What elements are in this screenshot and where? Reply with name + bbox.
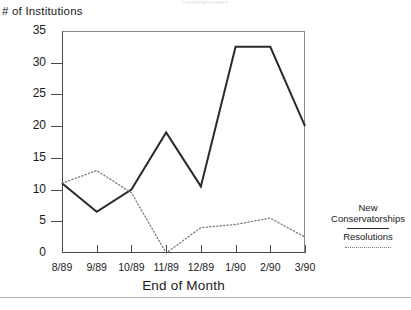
x-tick-mark [270, 245, 271, 253]
x-tick-label: 9/89 [86, 261, 106, 273]
chart-lines [62, 31, 305, 253]
y-tick-mark [51, 158, 62, 159]
x-tick-label: 2/90 [260, 261, 280, 273]
y-tick-mark [51, 126, 62, 127]
chart-page: CONSERVATORSHIPS # of Institutions 05101… [0, 0, 411, 310]
x-axis-title: End of Month [62, 278, 305, 293]
y-tick-mark [51, 63, 62, 64]
x-tick-mark [97, 245, 98, 253]
y-tick-label: 35 [33, 23, 46, 37]
legend-series1-label-line2: Conservatorships [326, 214, 410, 225]
x-tick-label: 8/89 [52, 261, 72, 273]
y-axis-ticks: 05101520253035 [0, 31, 62, 253]
y-tick-label: 5 [39, 213, 46, 227]
legend-dotted-line-swatch [345, 247, 391, 248]
y-tick-label: 25 [33, 86, 46, 100]
y-axis-title: # of Institutions [2, 5, 83, 17]
x-tick-label: 11/89 [153, 261, 179, 273]
legend-series1-label-line1: New [326, 203, 410, 214]
x-tick-mark [305, 245, 306, 253]
x-tick-mark [236, 245, 237, 253]
series-line-1 [62, 47, 305, 212]
x-tick-mark [131, 245, 132, 253]
x-tick-label: 1/90 [225, 261, 245, 273]
x-axis-ticks: 8/899/8910/8911/8912/891/902/903/90 [62, 253, 305, 279]
y-tick-label: 15 [33, 150, 46, 164]
y-tick-mark [51, 94, 62, 95]
y-tick-label: 10 [33, 182, 46, 196]
plot-area [62, 31, 305, 253]
x-tick-mark [166, 245, 167, 253]
x-tick-label: 3/90 [295, 261, 315, 273]
chart-legend: New Conservatorships Resolutions [326, 203, 410, 248]
y-tick-label: 20 [33, 118, 46, 132]
x-tick-label: 12/89 [188, 261, 214, 273]
y-tick-mark [51, 190, 62, 191]
legend-series2-label: Resolutions [326, 232, 410, 243]
y-tick-label: 30 [33, 55, 46, 69]
x-tick-mark [201, 245, 202, 253]
footer-divider [0, 297, 411, 298]
x-tick-mark [62, 245, 63, 253]
y-tick-label: 0 [39, 245, 46, 259]
faint-top-caption: CONSERVATORSHIPS [160, 0, 250, 7]
y-tick-mark [51, 221, 62, 222]
legend-solid-line-swatch [347, 228, 389, 229]
x-tick-label: 10/89 [118, 261, 144, 273]
